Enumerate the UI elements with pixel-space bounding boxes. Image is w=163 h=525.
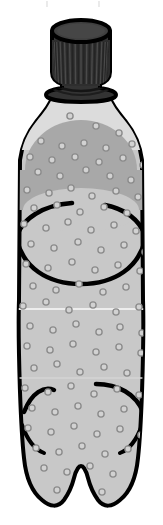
bubble <box>23 261 29 267</box>
bubble <box>30 283 36 289</box>
bubble <box>38 138 44 144</box>
cap-top-inner-ellipse <box>57 24 105 39</box>
bubble <box>96 329 102 335</box>
bubble <box>77 369 83 375</box>
bubble <box>121 242 127 248</box>
bubble <box>51 245 57 251</box>
bubble <box>98 247 104 253</box>
bubble <box>24 187 30 193</box>
bubble <box>89 193 95 199</box>
bubble <box>31 205 37 211</box>
bubble <box>101 364 107 370</box>
bubble <box>123 284 129 290</box>
bubble <box>120 155 126 161</box>
bubble <box>100 289 106 295</box>
bubble <box>20 303 26 309</box>
bubble <box>101 204 107 210</box>
bubble <box>43 225 49 231</box>
bubble <box>65 219 71 225</box>
bubble <box>56 449 62 455</box>
bubble <box>59 143 65 149</box>
bubble <box>73 321 79 327</box>
bubble <box>83 167 89 173</box>
bubble <box>35 169 41 175</box>
bubble <box>57 173 63 179</box>
bubble <box>77 483 83 489</box>
bubble <box>67 113 73 119</box>
bubble <box>91 391 97 397</box>
bubble <box>22 385 28 391</box>
bubble <box>77 209 83 215</box>
bubble <box>102 451 108 457</box>
bubble <box>29 405 35 411</box>
bubble <box>47 347 53 353</box>
bubble <box>121 406 127 412</box>
bubble <box>70 341 76 347</box>
cap-ridge-line <box>72 42 73 84</box>
bubble <box>49 157 55 163</box>
bubble <box>48 429 54 435</box>
top-tick-marks <box>47 1 99 7</box>
bubble <box>75 239 81 245</box>
bubble <box>68 383 74 389</box>
bubble <box>124 370 130 376</box>
bubble <box>21 221 27 227</box>
bubble <box>50 327 56 333</box>
bubble <box>45 265 51 271</box>
bubble <box>110 471 116 477</box>
bubble <box>27 154 33 160</box>
bubble <box>93 123 99 129</box>
bubble <box>69 259 75 265</box>
bubble <box>93 349 99 355</box>
bubble <box>45 389 51 395</box>
bubble <box>52 409 58 415</box>
bubble <box>98 411 104 417</box>
bubble <box>64 469 70 475</box>
bubble <box>54 202 60 208</box>
bubble <box>135 194 141 200</box>
bubble <box>27 323 33 329</box>
bubble <box>96 159 102 165</box>
bottle-cap-group <box>46 20 116 102</box>
bubble <box>133 228 139 234</box>
bubble <box>128 177 134 183</box>
bubble <box>113 309 119 315</box>
bubble <box>75 403 81 409</box>
bubble <box>88 227 94 233</box>
bubble <box>79 443 85 449</box>
bubble <box>124 210 130 216</box>
bubble <box>129 141 135 147</box>
bubble <box>99 489 105 495</box>
bubble <box>117 426 123 432</box>
bubble <box>66 307 72 313</box>
bubble <box>54 361 60 367</box>
bubble <box>28 241 34 247</box>
plastic-bottle-illustration <box>0 0 163 525</box>
bubble <box>136 392 142 398</box>
bubble <box>76 281 82 287</box>
cap-ridge-line <box>92 42 93 84</box>
bubble <box>117 324 123 330</box>
bubble <box>81 140 87 146</box>
bubble <box>53 287 59 293</box>
bubble <box>125 446 131 452</box>
bubble <box>94 431 100 437</box>
bubble <box>72 154 78 160</box>
bubble <box>68 185 74 191</box>
bubble <box>31 365 37 371</box>
bubble <box>71 423 77 429</box>
bubble <box>103 145 109 151</box>
bubble <box>46 190 52 196</box>
bubble <box>116 130 122 136</box>
cap-ridge-line <box>70 42 71 84</box>
bubble <box>41 465 47 471</box>
bubble <box>87 463 93 469</box>
bubble <box>43 299 49 305</box>
bubble <box>33 445 39 451</box>
bubble <box>24 343 30 349</box>
bubble <box>114 386 120 392</box>
bubble <box>113 188 119 194</box>
bubble <box>136 304 142 310</box>
cap-ridge-line <box>89 42 90 84</box>
bubble <box>25 425 31 431</box>
